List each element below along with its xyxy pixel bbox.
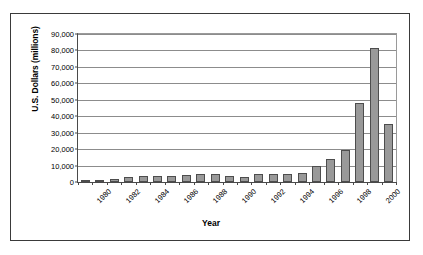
x-axis-title: Year	[11, 218, 411, 228]
bar	[110, 179, 119, 182]
x-tick-label: 2000	[384, 187, 402, 205]
bar	[254, 174, 263, 182]
x-tick-label: 1998	[355, 187, 373, 205]
y-tick-label: 80,000	[51, 46, 74, 55]
x-tick-mark	[136, 182, 137, 185]
x-tick-mark	[324, 182, 325, 185]
gridline	[78, 34, 396, 35]
y-tick-label: 40,000	[51, 112, 74, 121]
bar	[196, 174, 205, 182]
bar	[312, 166, 321, 182]
x-tick-mark	[295, 182, 296, 185]
bar	[95, 180, 104, 182]
y-tick-label: 90,000	[51, 30, 74, 39]
y-tick-label: 20,000	[51, 145, 74, 154]
x-tick-label: 1992	[269, 187, 287, 205]
x-tick-mark	[78, 182, 79, 185]
y-tick-label: 50,000	[51, 95, 74, 104]
x-tick-mark	[165, 182, 166, 185]
x-tick-label: 1982	[124, 187, 142, 205]
bar	[167, 176, 176, 182]
bar	[298, 173, 307, 182]
x-tick-mark	[266, 182, 267, 185]
x-tick-label: 1986	[182, 187, 200, 205]
x-tick-mark	[92, 182, 93, 185]
x-tick-mark	[150, 182, 151, 185]
bar	[153, 176, 162, 182]
plot-area: 90,00080,00070,00060,00050,00040,00030,0…	[77, 33, 397, 183]
bar	[341, 150, 350, 182]
gridline	[78, 67, 396, 68]
y-tick-label: 70,000	[51, 62, 74, 71]
bar	[283, 174, 292, 182]
x-tick-mark	[280, 182, 281, 185]
bar	[81, 180, 90, 182]
bar	[240, 177, 249, 182]
y-tick-mark	[75, 116, 78, 117]
bar	[384, 124, 393, 182]
x-tick-mark	[179, 182, 180, 185]
y-tick-mark	[75, 83, 78, 84]
x-tick-mark	[107, 182, 108, 185]
y-tick-mark	[75, 50, 78, 51]
x-tick-mark	[208, 182, 209, 185]
bar	[355, 103, 364, 182]
bar	[211, 174, 220, 182]
y-tick-mark	[75, 34, 78, 35]
y-tick-mark	[75, 99, 78, 100]
bar	[326, 159, 335, 182]
x-tick-mark	[367, 182, 368, 185]
y-tick-label: 60,000	[51, 79, 74, 88]
x-tick-mark	[396, 182, 397, 185]
bar	[124, 177, 133, 182]
chart-frame: U.S. Dollars (millions) Year 90,00080,00…	[10, 13, 410, 241]
x-tick-mark	[309, 182, 310, 185]
x-tick-mark	[223, 182, 224, 185]
y-tick-label: 30,000	[51, 128, 74, 137]
bar	[225, 176, 234, 182]
x-tick-label: 1996	[326, 187, 344, 205]
bar	[139, 176, 148, 182]
x-tick-mark	[121, 182, 122, 185]
x-tick-label: 1994	[297, 187, 315, 205]
gridline	[78, 50, 396, 51]
y-tick-mark	[75, 165, 78, 166]
gridline	[78, 100, 396, 101]
x-tick-label: 1980	[95, 187, 113, 205]
x-tick-mark	[338, 182, 339, 185]
x-tick-mark	[194, 182, 195, 185]
x-tick-mark	[251, 182, 252, 185]
x-tick-label: 1988	[211, 187, 229, 205]
gridline	[78, 133, 396, 134]
x-tick-mark	[353, 182, 354, 185]
x-tick-label: 1990	[240, 187, 258, 205]
bar	[269, 174, 278, 182]
y-tick-mark	[75, 132, 78, 133]
x-tick-label: 1984	[153, 187, 171, 205]
gridline	[78, 116, 396, 117]
y-tick-label: 10,000	[51, 161, 74, 170]
bar	[370, 48, 379, 183]
bar	[182, 175, 191, 182]
gridline	[78, 83, 396, 84]
x-tick-mark	[237, 182, 238, 185]
y-tick-mark	[75, 66, 78, 67]
y-tick-mark	[75, 149, 78, 150]
y-axis-title: U.S. Dollars (millions)	[30, 9, 40, 129]
x-tick-mark	[382, 182, 383, 185]
y-tick-label: 0	[70, 178, 74, 187]
